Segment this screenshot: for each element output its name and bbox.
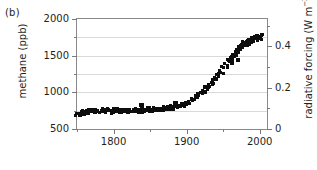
y-tick-label-left: 1500 xyxy=(44,51,69,61)
y-axis-label-right: radiative forcing (W m−2) xyxy=(302,9,313,119)
data-point xyxy=(211,81,214,84)
y-axis-label-right-superscript: −2 xyxy=(301,0,309,7)
x-tick-minor xyxy=(223,129,224,132)
data-point xyxy=(87,112,90,115)
y-tick-label-right: 0.4 xyxy=(275,41,291,51)
x-tick xyxy=(114,129,115,134)
data-point xyxy=(259,36,262,39)
data-point xyxy=(214,77,217,80)
data-point xyxy=(147,106,150,109)
y-tick-left xyxy=(72,92,77,93)
data-point xyxy=(203,85,208,90)
data-point xyxy=(173,101,178,106)
x-tick xyxy=(187,129,188,134)
data-point xyxy=(178,104,181,107)
data-point xyxy=(226,64,229,67)
y-tick-label-right: 0 xyxy=(275,124,281,134)
y-tick-right-minor xyxy=(267,67,270,68)
data-point xyxy=(207,83,210,86)
data-point xyxy=(230,60,235,65)
figure-panel-b: (b) methane (ppb) radiative forcing (W m… xyxy=(0,0,317,170)
y-tick-right xyxy=(267,129,272,130)
data-point xyxy=(139,103,144,108)
y-tick-label-left: 2000 xyxy=(44,14,69,24)
y-tick-left xyxy=(72,19,77,20)
data-point xyxy=(236,58,241,63)
y-tick-label-left: 1000 xyxy=(44,87,69,97)
data-point xyxy=(77,112,80,115)
data-point xyxy=(204,91,207,94)
data-point xyxy=(222,72,225,75)
y-axis-label-right-text: radiative forcing (W m xyxy=(303,7,314,119)
y-tick-left-minor xyxy=(74,74,77,75)
x-tick-minor xyxy=(77,129,78,132)
y-tick-right xyxy=(267,88,272,89)
data-point xyxy=(188,102,191,105)
data-point xyxy=(88,109,91,112)
y-tick-left-minor xyxy=(74,37,77,38)
data-point xyxy=(94,108,97,111)
x-tick-minor xyxy=(150,129,151,132)
x-tick xyxy=(260,129,261,134)
plot-area: 50010001500200000.20.4180019002000 xyxy=(76,18,268,130)
y-tick-label-right: 0.2 xyxy=(275,83,291,93)
y-tick-label-left: 500 xyxy=(50,124,69,134)
data-point xyxy=(219,71,222,74)
y-tick-left xyxy=(72,56,77,57)
y-tick-right-minor xyxy=(267,108,270,109)
y-tick-left-minor xyxy=(74,111,77,112)
data-point xyxy=(98,111,101,114)
x-tick-label: 1900 xyxy=(174,137,199,147)
x-tick-label: 1800 xyxy=(101,137,126,147)
data-point xyxy=(197,94,200,97)
x-tick-label: 2000 xyxy=(247,137,272,147)
y-axis-label-left: methane (ppb) xyxy=(18,16,28,106)
data-point xyxy=(151,110,154,113)
data-point xyxy=(220,65,223,68)
data-point xyxy=(237,51,240,54)
y-tick-right-minor xyxy=(267,26,270,27)
data-layer xyxy=(77,19,267,129)
data-point xyxy=(104,111,107,114)
y-tick-right xyxy=(267,46,272,47)
